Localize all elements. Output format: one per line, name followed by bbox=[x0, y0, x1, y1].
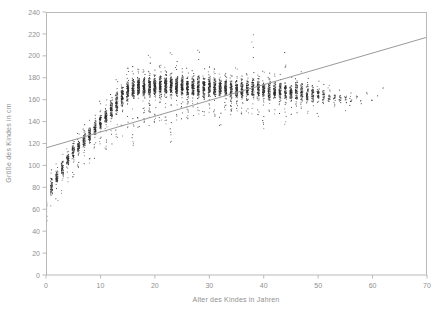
data-point bbox=[132, 94, 133, 95]
data-point bbox=[110, 103, 111, 104]
data-point bbox=[94, 137, 95, 138]
data-point bbox=[199, 80, 200, 81]
data-point bbox=[219, 117, 220, 118]
data-point bbox=[262, 92, 263, 93]
data-point bbox=[253, 57, 254, 58]
data-point bbox=[257, 98, 258, 99]
data-point bbox=[269, 111, 270, 112]
data-point bbox=[116, 101, 117, 102]
data-point bbox=[132, 109, 133, 110]
data-point bbox=[154, 91, 155, 92]
data-point bbox=[177, 78, 178, 79]
data-point bbox=[166, 120, 167, 121]
data-point bbox=[177, 96, 178, 97]
data-point bbox=[242, 76, 243, 77]
data-point bbox=[67, 168, 68, 169]
data-point bbox=[126, 74, 127, 75]
data-point bbox=[79, 134, 80, 135]
data-point bbox=[248, 93, 249, 94]
data-point bbox=[231, 108, 232, 109]
data-point bbox=[226, 105, 227, 106]
data-point bbox=[84, 150, 85, 151]
data-point bbox=[159, 92, 160, 93]
data-point bbox=[263, 124, 264, 125]
data-point bbox=[323, 93, 324, 94]
data-point bbox=[100, 111, 101, 112]
data-point bbox=[259, 76, 260, 77]
data-point bbox=[280, 88, 281, 89]
data-point bbox=[307, 113, 308, 114]
data-point bbox=[83, 139, 84, 140]
data-point bbox=[193, 95, 194, 96]
data-point bbox=[172, 83, 173, 84]
data-point bbox=[219, 95, 220, 96]
data-point bbox=[111, 114, 112, 115]
data-point bbox=[235, 82, 236, 83]
data-point bbox=[285, 66, 286, 67]
data-point bbox=[270, 99, 271, 100]
data-point bbox=[247, 95, 248, 96]
data-point bbox=[334, 106, 335, 107]
data-point bbox=[302, 100, 303, 101]
data-point bbox=[318, 92, 319, 93]
data-point bbox=[182, 87, 183, 88]
data-point bbox=[170, 87, 171, 88]
data-point bbox=[143, 94, 144, 95]
data-point bbox=[270, 96, 271, 97]
data-point bbox=[204, 78, 205, 79]
data-point bbox=[263, 86, 264, 87]
data-point bbox=[296, 93, 297, 94]
data-point bbox=[128, 84, 129, 85]
data-point bbox=[165, 70, 166, 71]
data-point bbox=[329, 98, 330, 99]
data-point bbox=[312, 92, 313, 93]
data-point bbox=[366, 92, 367, 93]
data-point bbox=[269, 103, 270, 104]
data-point bbox=[181, 92, 182, 93]
data-point bbox=[105, 120, 106, 121]
data-point bbox=[269, 73, 270, 74]
data-point bbox=[181, 118, 182, 119]
data-point bbox=[95, 127, 96, 128]
data-point bbox=[286, 93, 287, 94]
data-point bbox=[209, 112, 210, 113]
data-point bbox=[204, 111, 205, 112]
data-point bbox=[67, 177, 68, 178]
data-point bbox=[128, 92, 129, 93]
data-point bbox=[252, 113, 253, 114]
data-point bbox=[340, 99, 341, 100]
data-point bbox=[291, 92, 292, 93]
data-point bbox=[56, 188, 57, 189]
data-point bbox=[149, 103, 150, 104]
data-point bbox=[221, 91, 222, 92]
data-point bbox=[154, 89, 155, 90]
data-point bbox=[137, 86, 138, 87]
data-point bbox=[269, 83, 270, 84]
data-point bbox=[236, 108, 237, 109]
data-point bbox=[340, 98, 341, 99]
data-point bbox=[105, 111, 106, 112]
data-point bbox=[285, 86, 286, 87]
data-point bbox=[231, 76, 232, 77]
data-point bbox=[161, 96, 162, 97]
data-point bbox=[134, 84, 135, 85]
data-point bbox=[159, 78, 160, 79]
data-point bbox=[274, 95, 275, 96]
data-point bbox=[258, 98, 259, 99]
data-point bbox=[237, 94, 238, 95]
data-point bbox=[154, 70, 155, 71]
data-point bbox=[246, 92, 247, 93]
data-point bbox=[181, 80, 182, 81]
data-point bbox=[295, 88, 296, 89]
data-point bbox=[176, 69, 177, 70]
data-point bbox=[219, 79, 220, 80]
data-point bbox=[317, 95, 318, 96]
data-point bbox=[132, 93, 133, 94]
data-point bbox=[115, 102, 116, 103]
data-point bbox=[171, 85, 172, 86]
data-point bbox=[313, 105, 314, 106]
data-point bbox=[144, 88, 145, 89]
data-point bbox=[311, 90, 312, 91]
data-point bbox=[106, 142, 107, 143]
y-tick-label: 180 bbox=[28, 74, 40, 81]
